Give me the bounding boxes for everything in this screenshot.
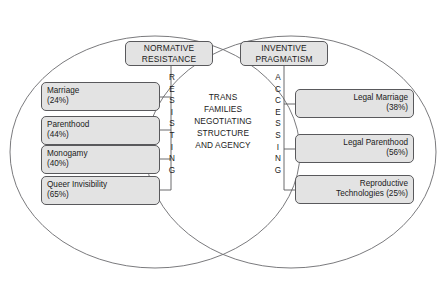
center-label-trans-families: TRANS FAMILIES NEGOTIATING STRUCTURE AND… — [192, 91, 254, 151]
node-monogamy-label: Monogamy — [47, 149, 154, 159]
header-normative-line1: NORMATIVE — [130, 43, 208, 54]
node-marriage-value: (24%) — [47, 96, 154, 106]
center-line-4: AND AGENCY — [192, 139, 254, 151]
node-legal-parenthood[interactable]: Legal Parenthood (56%) — [295, 134, 414, 163]
resisting-letter-8: G — [166, 165, 178, 177]
center-line-0: TRANS — [192, 91, 254, 103]
accessing-letter-6: I — [272, 142, 284, 154]
node-queer-invisibility[interactable]: Queer Invisibility (65%) — [41, 176, 160, 205]
node-reproductive-technologies-value: Technologies (25%) — [301, 189, 408, 199]
node-parenthood-value: (44%) — [47, 130, 154, 140]
node-legal-marriage-label: Legal Marriage — [301, 93, 408, 103]
node-parenthood-label: Parenthood — [47, 120, 154, 130]
center-line-3: STRUCTURE — [192, 127, 254, 139]
node-legal-marriage[interactable]: Legal Marriage (38%) — [295, 89, 414, 118]
accessing-letter-5: S — [272, 130, 284, 142]
resisting-letter-3: I — [166, 107, 178, 119]
vertical-label-resisting: R E S I S T I N G — [166, 72, 178, 176]
accessing-letter-2: C — [272, 95, 284, 107]
header-inventive-line1: INVENTIVE — [245, 43, 323, 54]
accessing-letter-8: G — [272, 165, 284, 177]
node-queer-invisibility-value: (65%) — [47, 190, 154, 200]
resisting-letter-7: N — [166, 153, 178, 165]
node-monogamy-value: (40%) — [47, 159, 154, 169]
resisting-letter-6: I — [166, 142, 178, 154]
header-inventive-pragmatism[interactable]: INVENTIVE PRAGMATISM — [240, 41, 328, 66]
accessing-letter-3: E — [272, 107, 284, 119]
node-reproductive-technologies-label: Reproductive — [301, 179, 408, 189]
resisting-letter-1: E — [166, 84, 178, 96]
accessing-letter-0: A — [272, 72, 284, 84]
node-legal-marriage-value: (38%) — [301, 103, 408, 113]
center-line-1: FAMILIES — [192, 103, 254, 115]
node-reproductive-technologies[interactable]: Reproductive Technologies (25%) — [295, 175, 414, 204]
center-line-2: NEGOTIATING — [192, 115, 254, 127]
accessing-letter-7: N — [272, 153, 284, 165]
resisting-letter-4: S — [166, 118, 178, 130]
accessing-letter-1: C — [272, 84, 284, 96]
header-inventive-line2: PRAGMATISM — [245, 54, 323, 65]
accessing-letter-4: S — [272, 118, 284, 130]
node-marriage-label: Marriage — [47, 86, 154, 96]
node-parenthood[interactable]: Parenthood (44%) — [41, 116, 160, 145]
diagram-canvas: NORMATIVE RESISTANCE INVENTIVE PRAGMATIS… — [0, 0, 446, 287]
right-bracket-connectors — [284, 66, 295, 190]
resisting-letter-2: S — [166, 95, 178, 107]
node-queer-invisibility-label: Queer Invisibility — [47, 180, 154, 190]
resisting-letter-5: T — [166, 130, 178, 142]
node-legal-parenthood-value: (56%) — [301, 148, 408, 158]
resisting-letter-0: R — [166, 72, 178, 84]
vertical-label-accessing: A C C E S S I N G — [272, 72, 284, 176]
header-normative-line2: RESISTANCE — [130, 54, 208, 65]
node-legal-parenthood-label: Legal Parenthood — [301, 138, 408, 148]
node-marriage[interactable]: Marriage (24%) — [41, 82, 160, 111]
header-normative-resistance[interactable]: NORMATIVE RESISTANCE — [125, 41, 213, 66]
node-monogamy[interactable]: Monogamy (40%) — [41, 145, 160, 174]
